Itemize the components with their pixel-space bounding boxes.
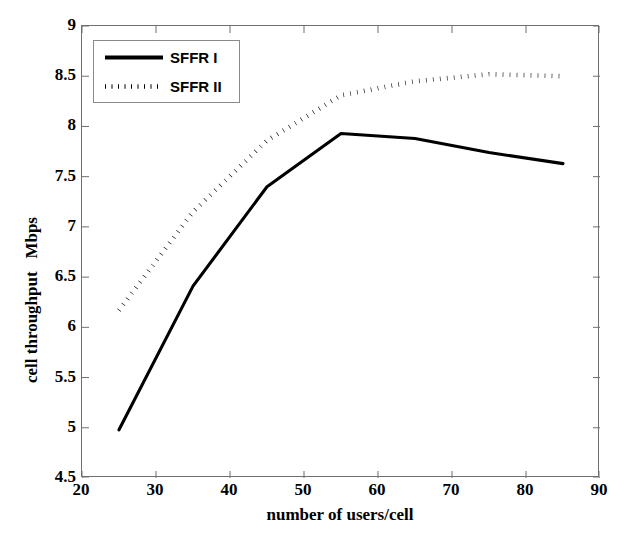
data-series-line-2 xyxy=(119,74,563,310)
legend-box: SFFR I SFFR II xyxy=(93,40,240,103)
x-tick-label: 50 xyxy=(273,480,333,500)
legend-entry-sffr-i: SFFR I xyxy=(94,43,239,72)
x-tick-label: 20 xyxy=(51,480,111,500)
legend-line-sample-dotted xyxy=(103,72,165,101)
x-tick-label: 70 xyxy=(421,480,481,500)
x-tick-label: 60 xyxy=(347,480,407,500)
x-tick-label: 40 xyxy=(199,480,259,500)
x-tick-label: 90 xyxy=(569,480,629,500)
x-tick-label: 30 xyxy=(125,480,185,500)
data-series-line-1 xyxy=(119,133,563,429)
chart-figure: cell throughput Mbps 4.555.566.577.588.5… xyxy=(0,0,641,542)
x-axis-label: number of users/cell xyxy=(81,505,599,525)
legend-label-sffr-ii: SFFR II xyxy=(170,72,222,101)
x-tick-label: 80 xyxy=(495,480,555,500)
legend-line-sample-solid xyxy=(103,43,165,72)
legend-entry-sffr-ii: SFFR II xyxy=(94,72,239,101)
legend-label-sffr-i: SFFR I xyxy=(170,43,218,72)
